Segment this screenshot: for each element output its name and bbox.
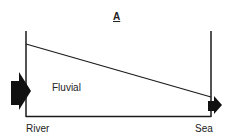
sea-label: Sea — [195, 124, 213, 134]
zone-label-fluvial: Fluvial — [52, 83, 81, 93]
river-label: River — [26, 124, 49, 134]
sea-outflow-arrow-icon — [208, 96, 222, 114]
river-inflow-arrow-icon — [11, 72, 31, 110]
diagram-title: A — [113, 12, 120, 22]
